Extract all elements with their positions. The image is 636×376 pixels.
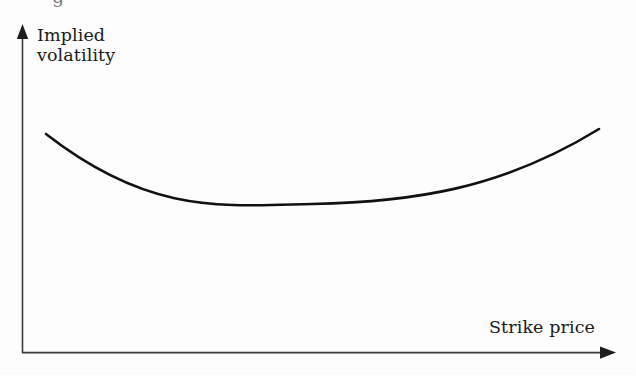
volatility-smile-curve bbox=[46, 129, 599, 205]
y-axis-label: Implied volatility bbox=[37, 26, 115, 65]
figure-container: g Implied volatility Strike price bbox=[0, 0, 636, 376]
x-axis-arrowhead-icon bbox=[600, 346, 616, 358]
y-axis-arrowhead-icon bbox=[17, 24, 28, 39]
x-axis-label: Strike price bbox=[489, 318, 595, 338]
